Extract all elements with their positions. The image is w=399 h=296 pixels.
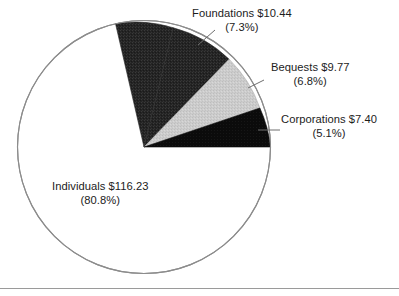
pie-chart-figure: Foundations $10.44 (7.3%) Bequests $9.77… <box>0 0 399 296</box>
pie-chart-svg <box>0 0 399 296</box>
slice-label-individuals-percent: (80.8%) <box>52 194 149 208</box>
slice-label-individuals-value: Individuals $116.23 <box>52 180 149 194</box>
slice-label-corporations-percent: (5.1%) <box>281 127 377 141</box>
slice-label-foundations: Foundations $10.44 (7.3%) <box>192 7 292 34</box>
slice-label-corporations-value: Corporations $7.40 <box>281 113 377 127</box>
slice-label-foundations-value: Foundations $10.44 <box>192 7 292 21</box>
slice-label-bequests-value: Bequests $9.77 <box>271 61 349 75</box>
slice-label-corporations: Corporations $7.40 (5.1%) <box>281 113 377 140</box>
slice-label-bequests: Bequests $9.77 (6.8%) <box>271 61 349 88</box>
slice-label-bequests-percent: (6.8%) <box>271 75 349 89</box>
slice-label-foundations-percent: (7.3%) <box>192 21 292 35</box>
slice-label-individuals: Individuals $116.23 (80.8%) <box>52 180 149 207</box>
footer-divider <box>0 288 399 289</box>
